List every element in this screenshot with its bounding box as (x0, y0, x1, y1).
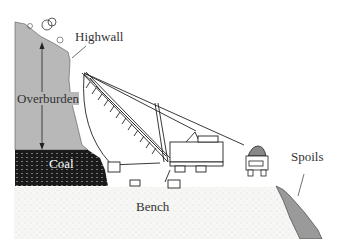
label-highwall: Highwall (75, 30, 123, 43)
tree-icon (42, 20, 52, 30)
label-bench: Bench (136, 200, 169, 213)
dragline-excavator (82, 72, 244, 188)
label-spoils: Spoils (291, 150, 324, 163)
strip-mine-diagram: Highwall Overburden Coal Bench Spoils (0, 0, 337, 239)
label-overburden: Overburden (17, 92, 79, 105)
label-coal: Coal (49, 157, 74, 170)
haul-truck (246, 146, 268, 176)
